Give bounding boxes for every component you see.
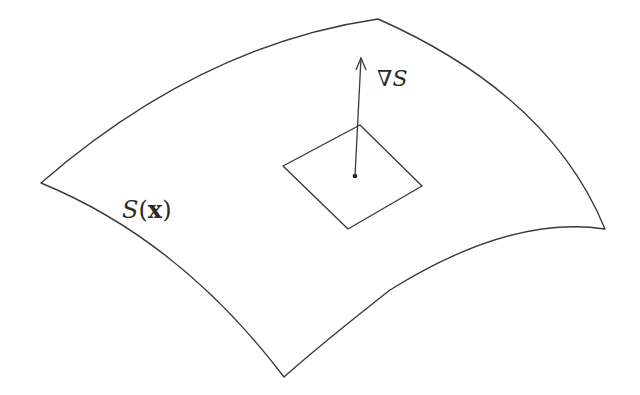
surface-diagram: ∇S S(x) (0, 0, 640, 395)
gradient-label: ∇S (377, 66, 407, 91)
gradient-vector (355, 58, 361, 176)
tangent-patch (283, 125, 422, 229)
surface-label: S(x) (122, 195, 172, 224)
